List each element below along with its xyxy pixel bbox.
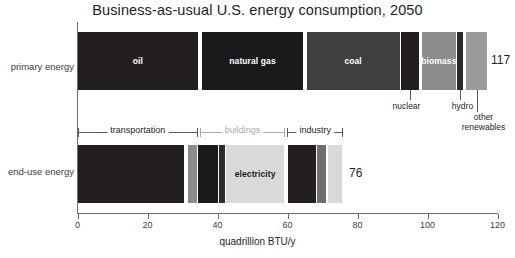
x-tick-label-120: 120: [478, 220, 515, 230]
bracket-label-transportation: transportation: [107, 125, 168, 135]
segment-transportation-other: [198, 145, 217, 203]
x-tick-0: [78, 214, 79, 219]
bar-primary-energy: oilnatural gascoalbiomass: [78, 32, 488, 90]
bracket-industry: industry: [287, 128, 344, 137]
x-tick-40: [218, 214, 219, 219]
total-value-end-use-energy: 76: [349, 166, 362, 180]
x-tick-label-60: 60: [268, 220, 308, 230]
chart-title: Business-as-usual U.S. energy consumptio…: [0, 2, 515, 18]
segment-industry-fuel: [288, 145, 316, 203]
segment-electricity: electricity: [226, 145, 284, 203]
row-label-primary-energy: primary energy: [2, 61, 74, 72]
bracket-cap-right-buildings: [284, 128, 285, 137]
total-value-primary-energy: 117: [491, 53, 510, 67]
segment-industry-gas: [317, 145, 326, 203]
x-tick-20: [148, 214, 149, 219]
segment-other-renewables: [466, 32, 487, 90]
x-tick-label-20: 20: [128, 220, 168, 230]
bracket-cap-right-transportation: [197, 128, 198, 137]
x-tick-100: [428, 214, 429, 219]
bracket-cap-right-industry: [342, 128, 343, 137]
x-tick-label-0: 0: [58, 220, 98, 230]
callout-leader-nuclear: [410, 90, 411, 100]
segment-coal: coal: [307, 32, 400, 90]
callout-label-other-renewables: otherrenewables: [439, 113, 515, 132]
segment-hydro: [457, 32, 463, 90]
x-tick-label-40: 40: [198, 220, 238, 230]
segment-label-oil: oil: [133, 56, 143, 66]
x-tick-80: [358, 214, 359, 219]
chart-root: Business-as-usual U.S. energy consumptio…: [0, 0, 515, 258]
x-axis-title: quadrillion BTU/y: [0, 236, 515, 247]
bracket-label-buildings: buildings: [222, 125, 264, 135]
x-tick-label-80: 80: [338, 220, 378, 230]
segment-label-biomass: biomass: [421, 56, 456, 66]
segment-transportation-liquid: [78, 145, 185, 203]
segment-buildings-fuel: [219, 145, 224, 203]
callout-label-hydro: hydro: [418, 101, 508, 111]
callout-leader-hydro: [460, 90, 461, 100]
bar-end-use-energy: electricity: [78, 145, 344, 203]
segment-industry-electricity: [328, 145, 342, 203]
segment-natural-gas: natural gas: [202, 32, 304, 90]
bracket-label-industry: industry: [296, 125, 334, 135]
row-label-end-use-energy: end-use energy: [2, 166, 74, 177]
bracket-buildings: buildings: [200, 128, 285, 137]
x-tick-60: [288, 214, 289, 219]
x-tick-label-100: 100: [408, 220, 448, 230]
segment-label-coal: coal: [344, 56, 361, 66]
segment-biomass: biomass: [422, 32, 455, 90]
callout-leader-other-renewables: [477, 90, 478, 112]
bracket-transportation: transportation: [78, 128, 198, 137]
segment-transportation-gas: [188, 145, 197, 203]
x-tick-120: [498, 214, 499, 219]
segment-label-electricity: electricity: [235, 169, 276, 179]
segment-oil: oil: [78, 32, 199, 90]
segment-label-natural-gas: natural gas: [229, 56, 275, 66]
segment-nuclear: [401, 32, 419, 90]
